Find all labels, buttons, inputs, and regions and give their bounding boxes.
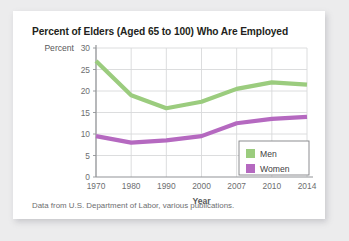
- y-tick-label: 30: [81, 43, 91, 53]
- x-axis-tick-labels: 1970198019902000200720102014: [87, 181, 317, 191]
- x-tick-label: 2000: [192, 181, 211, 191]
- x-tick-label: 1990: [157, 181, 176, 191]
- y-tick-label: 25: [81, 65, 91, 75]
- y-tick-label: 20: [81, 86, 91, 96]
- y-axis-title: Percent: [44, 43, 74, 53]
- y-axis-title-text: Percent: [44, 43, 74, 53]
- y-tick-label: 15: [81, 108, 91, 118]
- x-tick-label: 2007: [227, 181, 246, 191]
- legend-label-women: Women: [260, 164, 290, 174]
- x-tick-label: 2010: [263, 181, 282, 191]
- legend: MenWomen: [239, 141, 309, 175]
- line-chart: 051015202530 197019801990200020072010201…: [13, 11, 325, 219]
- y-axis-tick-labels: 051015202530: [81, 43, 91, 182]
- x-tick-label: 1980: [122, 181, 141, 191]
- y-tick-label: 10: [81, 129, 91, 139]
- legend-label-men: Men: [260, 149, 277, 159]
- legend-swatch-women: [246, 164, 255, 173]
- legend-swatch-men: [246, 149, 255, 158]
- figure-card: Percent of Elders (Aged 65 to 100) Who A…: [13, 11, 325, 219]
- source-note: Data from U.S. Department of Labor, vari…: [32, 201, 234, 210]
- y-tick-label: 5: [85, 151, 90, 161]
- x-tick-label: 1970: [87, 181, 106, 191]
- x-tick-label: 2014: [298, 181, 317, 191]
